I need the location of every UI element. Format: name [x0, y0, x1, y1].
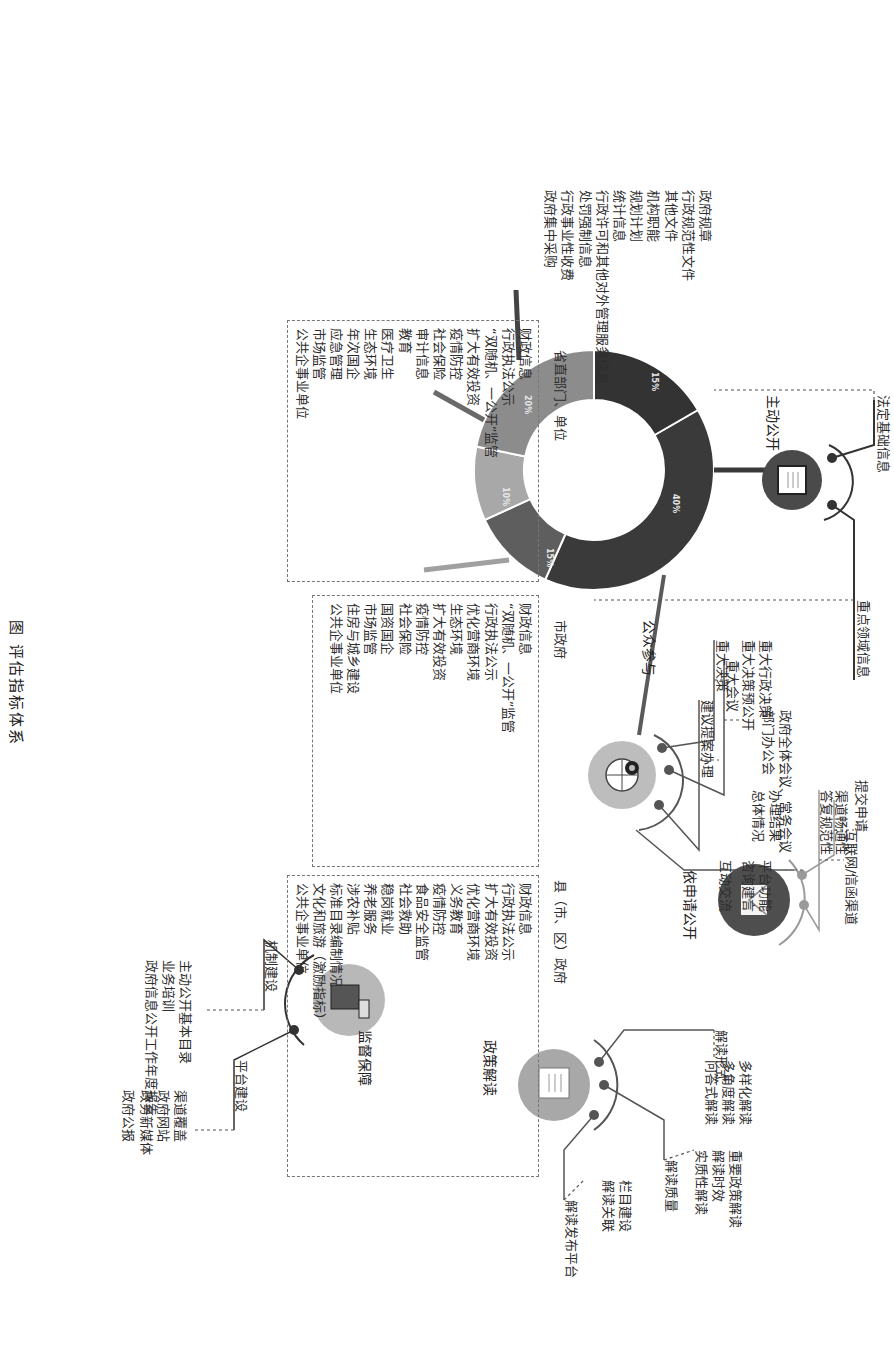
xingshi-items: 多样化解读 多角度解读 问答式解读 [702, 1060, 754, 1125]
list-item: 办理结果 [767, 790, 784, 842]
list-item: 行政执法公示 [500, 883, 517, 1026]
list-item: 多样化解读 [737, 1060, 754, 1125]
dafu-item: 互联网/信函渠道 [843, 830, 860, 925]
jianyi-items: 办理结果 总体情况 [750, 790, 784, 842]
list-item: 多角度解读 [720, 1060, 737, 1125]
zhiliang-items: 重要政策解读 解读时效 实质性解读 [692, 1150, 744, 1228]
pct-label-15a: 15% [545, 548, 554, 567]
list-item: 行政执法公示 [482, 603, 499, 733]
list-item: 教育 [397, 328, 414, 458]
list-item: 其他文件 [662, 190, 679, 385]
list-item: 咨询建言 [740, 860, 757, 912]
list-item: 政府公报 [120, 1090, 137, 1155]
list-item: 栏目建设 [617, 1180, 634, 1232]
list-item: 公共企事业单位 [328, 603, 345, 733]
list-item: 行政许可和其他对外管理服务信息 [594, 190, 611, 385]
list-item: 政务新媒体 [137, 1090, 154, 1155]
list-item: 医疗卫生 [379, 328, 396, 458]
list-item: 稳岗就业 [379, 883, 396, 1026]
list-item: 公共企事业单位 [293, 328, 310, 458]
list-item: 机构职能 [645, 190, 662, 385]
list-item: 市场监管 [362, 603, 379, 733]
sub-zhiliang: 解读质量 [663, 1160, 680, 1212]
group-list-xian: 财政信息 行政执法公示 扩大有效投资 优化营商环境 义务教育 疫情防控 食品安全… [293, 883, 534, 1026]
pingtai-jianshe-items: 渠道覆盖 政府网站 政务新媒体 政府公报 [120, 1090, 189, 1155]
hub-jiedu [518, 1030, 714, 1200]
sub-pingtai-jianshe: 平台建设 [233, 1060, 250, 1112]
list-item: 优化营商环境 [465, 883, 482, 1026]
list-item: 义务教育 [448, 883, 465, 1026]
list-item: 统计信息 [611, 190, 628, 385]
sub-dafu: 答复规范性 [818, 790, 835, 855]
sub-pingtai: 解读发布平台 [563, 1200, 580, 1278]
figure-caption: 图 评估指标体系 [7, 620, 28, 746]
sub-fading-label: 法定基础信息 [875, 395, 892, 473]
list-item: 财政信息 [517, 883, 534, 1026]
group-list-sheng: 财政信息 行政执法公示 “双随机、一公开”监管 扩大有效投资 疫情防控 社会保险… [293, 328, 534, 458]
sub-jianyi: 建议提案办理 [699, 700, 716, 778]
branch-title-zhudong: 主动公开 [764, 395, 782, 451]
list-item: 审计信息 [414, 328, 431, 458]
list-item: 规划计划 [628, 190, 645, 385]
group-list-shi: 财政信息 “双随机、一公开”监管 行政执法公示 优化营商环境 生态环境 扩大有效… [328, 603, 534, 733]
sub-key-label: 重点领域信息 [855, 600, 872, 678]
list-item: 标准目录编制情况 [328, 883, 345, 1026]
list-item: 财政信息 [517, 603, 534, 733]
pingtai-items: 栏目建设 解读关联 [600, 1180, 634, 1232]
list-item: 公共企事业单位 [293, 883, 310, 1026]
hudong-items: 平台功能 咨询建言 [740, 860, 774, 912]
list-item: 扩大有效投资 [465, 328, 482, 458]
group-title-xian: 县（市、区）政府 [552, 880, 569, 984]
list-item: 食品安全监管 [414, 883, 431, 1026]
list-item: 涉农补贴 [345, 883, 362, 1026]
list-item: 平台功能 [757, 860, 774, 912]
group-title-shi: 市政府 [552, 620, 569, 659]
list-item: 行政执法公示 [500, 328, 517, 458]
list-item: 社会保险 [397, 603, 414, 733]
list-item: 渠道覆盖 [172, 1090, 189, 1155]
donut-segment-40 [545, 410, 714, 590]
list-item: “双随机、一公开”监管 [500, 603, 517, 733]
list-item: 财政信息 [517, 328, 534, 458]
list-item: 文化和旅游（激励指标） [311, 883, 328, 1026]
group-title-sheng: 省直部门、单位 [552, 350, 569, 441]
list-item: 解读关联 [600, 1180, 617, 1232]
sub-hudong: 互动交流 [717, 860, 734, 912]
list-item: 实质性解读 [692, 1150, 709, 1228]
list-item: 问答式解读 [702, 1060, 719, 1125]
list-item: 年次国企 [345, 328, 362, 458]
list-item: 解读时效 [710, 1150, 727, 1228]
list-item: 重大决策预公开 [740, 640, 757, 731]
list-item: “双随机、一公开”监管 [482, 328, 499, 458]
list-item: 扩大有效投资 [482, 883, 499, 1026]
list-item: 社会保险 [431, 328, 448, 458]
pct-label-40: 40% [671, 494, 680, 513]
list-item: 市场监管 [311, 328, 328, 458]
sub-jizhi: 机制建设 [263, 940, 280, 992]
list-item: 扩大有效投资 [431, 603, 448, 733]
list-item: 疫情防控 [414, 603, 431, 733]
list-item: 社会救助 [397, 883, 414, 1026]
list-item: 政府规章 [697, 190, 714, 385]
list-item: 政府网站 [155, 1090, 172, 1155]
diagram-canvas: 40% 15% 10% 20% 15% 主动公开 公众参与 依申请公开 政策解读… [0, 0, 894, 1367]
list-item: 重要政策解读 [727, 1150, 744, 1228]
list-item: 行政规范性文件 [680, 190, 697, 385]
branch-title-yishenqing: 依申请公开 [681, 870, 699, 940]
list-item: 住房与城乡建设 [345, 603, 362, 733]
diagram-stage: 40% 15% 10% 20% 15% 主动公开 公众参与 依申请公开 政策解读… [0, 0, 894, 1367]
list-item: 处罚强制信息 [577, 190, 594, 385]
list-item: 优化营商环境 [465, 603, 482, 733]
list-item: 总体情况 [750, 790, 767, 842]
qudao-item: 提交申请 [853, 780, 870, 832]
list-item: 养老服务 [362, 883, 379, 1026]
list-item: 疫情防控 [431, 883, 448, 1026]
list-item: 生态环境 [362, 328, 379, 458]
list-item: 生态环境 [448, 603, 465, 733]
list-item: 国资国企 [379, 603, 396, 733]
list-item: 疫情防控 [448, 328, 465, 458]
sub-zhongda-huiyi: 重大会议 [724, 660, 741, 712]
branch-title-gongzhong: 公众参与 [640, 620, 658, 676]
list-item: 应急管理 [328, 328, 345, 458]
